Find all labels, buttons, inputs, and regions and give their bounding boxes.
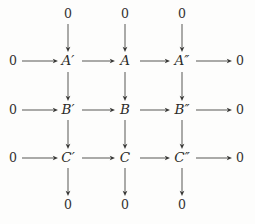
row-c-object-c-2: C″ <box>174 151 189 165</box>
bottom-zero-0: 0 <box>64 199 72 212</box>
row-a-object-a-1: A <box>120 54 130 68</box>
row-c-right-zero: 0 <box>236 152 244 165</box>
horizontal-arrow-8 <box>22 156 58 161</box>
vertical-arrow-5 <box>180 72 185 101</box>
row-c-object-c-1: C <box>120 151 130 165</box>
horizontal-arrow-2 <box>140 59 170 64</box>
row-b-object-b-1: B <box>120 103 130 117</box>
horizontal-arrow-6 <box>140 108 170 113</box>
vertical-arrow-9 <box>66 168 71 196</box>
row-b-left-zero: 0 <box>9 104 17 117</box>
row-b-object-b-0: B′ <box>62 103 75 117</box>
vertical-arrow-1 <box>123 24 128 52</box>
vertical-arrow-11 <box>180 168 185 196</box>
horizontal-arrow-0 <box>22 59 58 64</box>
vertical-arrow-4 <box>123 72 128 101</box>
horizontal-arrow-9 <box>82 156 115 161</box>
horizontal-arrow-11 <box>196 156 232 161</box>
top-zero-0: 0 <box>64 8 72 21</box>
row-c-object-c-0: C′ <box>61 151 74 165</box>
row-b-object-b-2: B″ <box>175 103 190 117</box>
row-a-object-a-0: A′ <box>62 54 75 68</box>
top-zero-2: 0 <box>178 8 186 21</box>
vertical-arrow-2 <box>180 24 185 52</box>
horizontal-arrow-7 <box>196 108 232 113</box>
row-a-object-a-2: A″ <box>175 54 190 68</box>
horizontal-arrow-3 <box>196 59 232 64</box>
horizontal-arrow-5 <box>82 108 115 113</box>
horizontal-arrow-1 <box>82 59 115 64</box>
row-a-left-zero: 0 <box>9 55 17 68</box>
horizontal-arrow-4 <box>22 108 58 113</box>
vertical-arrow-8 <box>180 120 185 149</box>
row-a-right-zero: 0 <box>236 55 244 68</box>
bottom-zero-2: 0 <box>178 199 186 212</box>
vertical-arrow-7 <box>123 120 128 149</box>
bottom-zero-1: 0 <box>121 199 129 212</box>
commutative-diagram: 0000000A′AA″00B′BB″00C′CC″0 <box>0 0 255 224</box>
row-b-right-zero: 0 <box>236 104 244 117</box>
vertical-arrow-3 <box>66 72 71 101</box>
top-zero-1: 0 <box>121 8 129 21</box>
horizontal-arrow-10 <box>140 156 170 161</box>
vertical-arrow-6 <box>66 120 71 149</box>
vertical-arrow-10 <box>123 168 128 196</box>
row-c-left-zero: 0 <box>9 152 17 165</box>
vertical-arrow-0 <box>66 24 71 52</box>
